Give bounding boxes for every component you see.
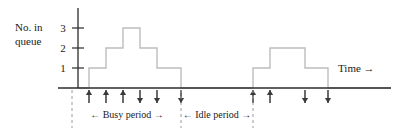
y-axis-label-line2: queue xyxy=(15,35,41,47)
x-axis-label: Time → xyxy=(338,62,375,74)
queueing-diagram-figure: 321 No. in queue Time → ← Busy period →←… xyxy=(0,0,398,133)
period-label-1: ← Busy period → xyxy=(90,109,164,120)
arrival-arrow-5 xyxy=(267,90,273,103)
departure-arrow-2 xyxy=(154,90,160,103)
y-axis-label-line1: No. in xyxy=(15,21,43,33)
y-axis-tick-labels: 321 xyxy=(60,22,66,74)
arrival-arrow-3 xyxy=(120,90,126,103)
y-axis-tick-label-2: 2 xyxy=(60,42,66,54)
y-axis-tick-label-1: 1 xyxy=(60,62,66,74)
departure-arrow-5 xyxy=(325,90,331,103)
departure-arrow-1 xyxy=(137,90,143,103)
arrival-arrow-1 xyxy=(86,90,92,103)
arrival-arrows-group xyxy=(86,90,273,103)
arrival-arrow-2 xyxy=(103,90,109,103)
period-label-2: ← Idle period → xyxy=(183,109,252,120)
departure-arrow-4 xyxy=(302,90,308,103)
queue-length-step-line xyxy=(78,28,391,88)
diagram-canvas: 321 No. in queue Time → ← Busy period →←… xyxy=(0,0,398,133)
y-axis-tick-label-3: 3 xyxy=(60,22,66,34)
departure-arrows-group xyxy=(137,90,331,103)
period-labels-group: ← Busy period →← Idle period → xyxy=(90,109,251,120)
